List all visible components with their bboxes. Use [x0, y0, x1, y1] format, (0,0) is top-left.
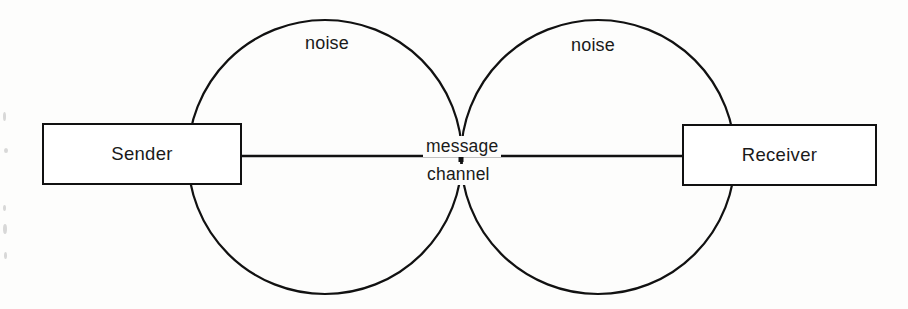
scan-artifact — [3, 205, 6, 211]
noise-label-right: noise — [571, 35, 615, 56]
sender-node-label: Sender — [111, 143, 172, 165]
diagram-canvas: Sender Receiver noise noise message chan… — [0, 0, 908, 309]
scan-artifact — [3, 112, 6, 121]
scan-artifact — [4, 148, 8, 153]
receiver-node: Receiver — [682, 124, 877, 186]
scan-artifact — [3, 224, 7, 234]
channel-label: channel — [424, 164, 493, 185]
message-label: message — [423, 136, 501, 157]
noise-label-left: noise — [305, 33, 349, 54]
scan-artifact — [4, 252, 7, 259]
receiver-node-label: Receiver — [742, 144, 817, 166]
sender-node: Sender — [42, 123, 242, 185]
